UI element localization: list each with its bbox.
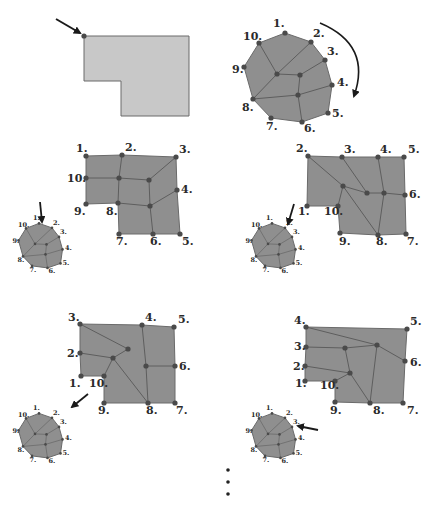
vertex-label: 4.: [181, 183, 192, 196]
vertex-label: 6.: [49, 267, 56, 275]
vertex-label: 3.: [294, 340, 305, 353]
vertex-label: 9.: [74, 205, 85, 218]
boundary-vertex: [404, 326, 409, 331]
vertex-label: 1.: [298, 205, 309, 218]
vertex-label: 7.: [263, 456, 270, 464]
boundary-vertex: [173, 154, 178, 159]
vertex-label: 1.: [33, 214, 40, 222]
vertex-label: 6.: [410, 356, 421, 369]
vertex-label: 2.: [313, 27, 324, 40]
vertex-label: 4.: [145, 311, 156, 324]
vertex-label: 1.: [76, 142, 87, 155]
mini-octagon: 1.2.3.4.5.6.7.8.9.10.: [13, 404, 72, 465]
vertex-label: 9.: [13, 427, 20, 435]
vertex-label: 5.: [296, 259, 303, 267]
mesh-step-4: 1.2.3.4.5.6.7.8.9.10.1.2.3.4.5.6.7.8.9.1…: [246, 314, 422, 465]
vertex-label: 4.: [298, 244, 305, 252]
vertex-label: 9.: [246, 237, 253, 245]
ellipsis-dot: [226, 492, 230, 496]
arrow-icon: [72, 394, 88, 407]
boundary-vertex: [61, 438, 64, 441]
vertex-label: 6.: [150, 235, 161, 248]
vertex-label: 7.: [30, 266, 37, 274]
vertex-label: 6.: [49, 457, 56, 465]
vertex-label: 1.: [33, 404, 40, 412]
vertex-label: 7.: [176, 404, 187, 417]
vertex-label: 10.: [251, 221, 262, 229]
inner-vertex: [45, 243, 48, 246]
vertex-label: 9.: [98, 404, 109, 417]
inner-vertex: [342, 345, 347, 350]
inner-vertex: [44, 253, 47, 256]
inner-vertex: [147, 203, 152, 208]
vertex-label: 4.: [337, 76, 348, 89]
boundary-vertex: [329, 82, 334, 87]
vertex-label: 10.: [320, 379, 339, 392]
vertex-label: 6.: [409, 188, 420, 201]
vertex-label: 2.: [67, 347, 78, 360]
inner-vertex: [116, 175, 121, 180]
mini-octagon: 1.2.3.4.5.6.7.8.9.10.: [13, 214, 72, 275]
boundary-vertex: [367, 400, 372, 405]
grid-mesh: 1.2.3.4.5.6.7.8.9.10.: [296, 142, 420, 248]
boundary-vertex: [59, 262, 62, 265]
vertex-label: 10.: [324, 205, 343, 218]
inner-vertex: [297, 72, 302, 77]
boundary-vertex: [402, 358, 407, 363]
vertex-label: 8.: [251, 256, 258, 264]
inner-vertex: [347, 370, 352, 375]
vertex-label: 7.: [407, 235, 418, 248]
vertex-label: 4.: [380, 143, 391, 156]
mesh-sequence: 1.2.3.4.5.6.7.8.9.10.1.2.3.4.5.6.7.8.9.1…: [13, 141, 422, 465]
boundary-vertex: [400, 400, 405, 405]
vertex-label: 8.: [18, 446, 25, 454]
boundary-vertex: [402, 192, 407, 197]
vertex-label: 8.: [106, 205, 117, 218]
continuation-ellipsis: [226, 468, 230, 496]
vertex-label: 2.: [53, 409, 60, 417]
ellipsis-dot: [226, 468, 230, 472]
inner-vertex: [277, 443, 280, 446]
vertex-label: 3.: [293, 228, 300, 236]
vertex-label: 5.: [410, 315, 421, 328]
mini-octagon: 1.2.3.4.5.6.7.8.9.10.: [246, 214, 305, 275]
vertex-label: 8.: [373, 404, 384, 417]
vertex-label: 5.: [332, 107, 343, 120]
diagram-canvas: 1.2.3.4.5.6.7.8.9.10. 1.2.3.4.5.6.7.8.9.…: [0, 0, 435, 506]
vertex-label: 6.: [304, 122, 315, 135]
vertex-label: 9.: [246, 427, 253, 435]
vertex-label: 4.: [298, 434, 305, 442]
vertex-label: 5.: [182, 235, 193, 248]
grid-mesh: 1.2.3.4.5.6.7.8.9.10.: [67, 141, 193, 248]
vertex-label: 5.: [63, 259, 70, 267]
boundary-vertex: [38, 412, 41, 415]
boundary-shape: [84, 36, 189, 116]
grid-mesh: 1.2.3.4.5.6.7.8.9.10.: [67, 311, 190, 417]
vertex-label: 9.: [13, 237, 20, 245]
inner-vertex: [267, 433, 270, 436]
boundary-vertex: [139, 322, 144, 327]
vertex-label: 3.: [293, 418, 300, 426]
vertex-label: 10.: [251, 411, 262, 419]
vertex-label: 7.: [407, 404, 418, 417]
vertex-label: 3.: [60, 418, 67, 426]
vertex-label: 7.: [263, 266, 270, 274]
vertex-label: 2.: [296, 142, 307, 155]
vertex-label: 2.: [286, 409, 293, 417]
arrow-icon: [40, 202, 42, 222]
boundary-vertex: [294, 438, 297, 441]
vertex-label: 3.: [60, 228, 67, 236]
vertex-label: 10.: [18, 221, 29, 229]
inner-vertex: [340, 183, 345, 188]
arrow-icon: [298, 426, 318, 430]
inner-vertex: [277, 253, 280, 256]
vertex-label: 1.: [266, 214, 273, 222]
boundary-vertex: [325, 110, 330, 115]
inner-vertex: [278, 243, 281, 246]
vertex-label: 2.: [125, 141, 136, 154]
vertex-label: 4.: [65, 244, 72, 252]
boundary-vertex: [322, 57, 327, 62]
vertex-label: 8.: [242, 101, 253, 114]
boundary-vertex: [38, 222, 41, 225]
vertex-label: 3.: [327, 45, 338, 58]
